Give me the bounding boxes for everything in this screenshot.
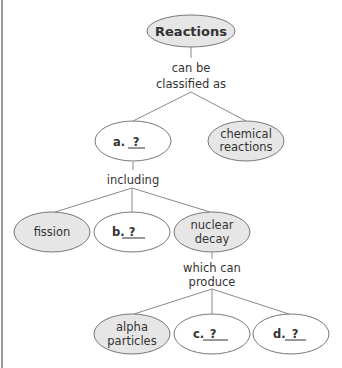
node-chemical-line1: chemical (220, 127, 272, 141)
link-label-classified-as: classified as (156, 77, 226, 91)
node-alpha-particles: alpha particles (94, 314, 170, 354)
node-reactions-label: Reactions (155, 24, 227, 39)
connector-to-alpha (134, 289, 212, 314)
node-alpha-line2: particles (107, 334, 156, 348)
node-fission: fission (14, 212, 90, 252)
connector-to-a (133, 92, 191, 121)
node-b-prefix: b. (112, 225, 125, 239)
node-decay-line1: nuclear (191, 218, 234, 232)
node-c: c. ? (174, 314, 250, 354)
node-a-prefix: a. (113, 135, 125, 149)
node-b-answer: ? (129, 225, 136, 239)
link-label-including: including (107, 173, 159, 187)
node-decay-line2: decay (195, 232, 230, 246)
node-c-answer: ? (210, 327, 217, 341)
node-a: a. ? (95, 121, 171, 161)
link-label-produce: produce (189, 275, 236, 289)
connector-to-d (212, 289, 289, 314)
node-fission-label: fission (34, 225, 71, 239)
node-chemical-reactions: chemical reactions (208, 121, 284, 161)
concept-map: Reactions can be classified as a. ? chem… (0, 0, 342, 368)
node-nuclear-decay: nuclear decay (174, 212, 250, 252)
node-alpha-line1: alpha (116, 320, 148, 334)
node-b: b. ? (94, 212, 170, 252)
connector-to-fission (55, 188, 132, 212)
link-label-which-can: which can (183, 261, 241, 275)
connector-to-decay (132, 188, 210, 212)
connector-to-chemical (191, 92, 246, 121)
node-d-answer: ? (292, 327, 299, 341)
node-d-prefix: d. (273, 327, 286, 341)
node-c-prefix: c. (193, 327, 204, 341)
node-chemical-line2: reactions (220, 140, 273, 154)
link-label-can-be: can be (172, 61, 211, 75)
node-reactions: Reactions (147, 15, 235, 47)
node-d: d. ? (253, 314, 329, 354)
node-a-answer: ? (133, 135, 140, 149)
